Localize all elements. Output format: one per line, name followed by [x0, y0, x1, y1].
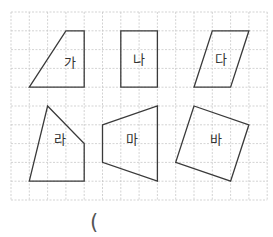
- shape-label-na: 나: [133, 52, 145, 67]
- grid-figure: 가나다라마바: [0, 0, 273, 210]
- shape-label-ma: 마: [126, 132, 138, 147]
- shape-da: 다: [194, 31, 249, 87]
- shape-label-ba: 바: [210, 132, 222, 147]
- shape-label-ga: 가: [64, 55, 76, 70]
- answer-blank-parenthesis: (: [90, 210, 98, 234]
- shape-ga: 가: [29, 31, 84, 87]
- shape-label-ra: 라: [54, 132, 66, 147]
- shape-outline-ga: [29, 31, 84, 87]
- shape-label-da: 다: [215, 52, 227, 67]
- dotted-grid: [11, 12, 267, 200]
